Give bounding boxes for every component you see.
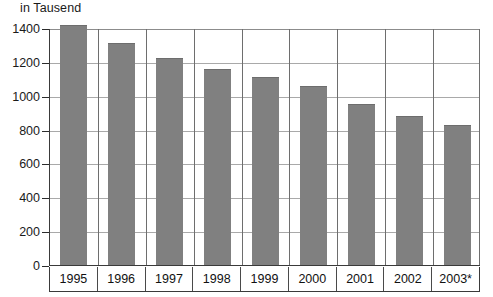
bar[interactable] xyxy=(252,77,279,265)
x-tick-label: 1999 xyxy=(241,267,289,291)
y-tick-mark xyxy=(42,232,49,233)
bar[interactable] xyxy=(444,125,471,265)
y-tick-label: 400 xyxy=(19,191,40,205)
bar[interactable] xyxy=(300,86,327,265)
bar-chart: in Tausend 0200400600800100012001400 199… xyxy=(0,0,493,297)
bar-slot xyxy=(194,29,242,265)
x-tick-label: 2003* xyxy=(432,267,479,291)
y-tick-mark xyxy=(42,198,49,199)
x-tick-label: 2001 xyxy=(337,267,385,291)
bar[interactable] xyxy=(348,104,375,265)
bar-slot xyxy=(289,29,337,265)
y-tick-label: 1400 xyxy=(12,22,40,36)
bar-slot xyxy=(98,29,146,265)
plot-area xyxy=(49,29,480,266)
bar-slot xyxy=(385,29,433,265)
bar[interactable] xyxy=(204,69,231,265)
x-tick-label: 1996 xyxy=(98,267,146,291)
y-tick-mark xyxy=(42,63,49,64)
bar[interactable] xyxy=(156,58,183,265)
chart-title: in Tausend xyxy=(20,1,81,15)
y-axis: 0200400600800100012001400 xyxy=(0,22,44,272)
y-tick-label: 0 xyxy=(33,259,40,273)
bar-slot xyxy=(433,29,481,265)
bar-slot xyxy=(50,29,98,265)
y-tick-mark xyxy=(42,131,49,132)
bars-container xyxy=(50,29,480,265)
y-tick-mark xyxy=(42,164,49,165)
y-tick-mark xyxy=(42,97,49,98)
y-tick-mark xyxy=(42,29,49,30)
x-tick-label: 2002 xyxy=(384,267,432,291)
y-tick-mark xyxy=(42,266,49,267)
bar-slot xyxy=(242,29,290,265)
y-tick-label: 600 xyxy=(19,157,40,171)
y-tick-label: 1200 xyxy=(12,56,40,70)
bar[interactable] xyxy=(108,43,135,265)
bar[interactable] xyxy=(60,25,87,265)
x-tick-label: 1997 xyxy=(146,267,194,291)
bar-slot xyxy=(337,29,385,265)
bar[interactable] xyxy=(396,116,423,265)
x-tick-label: 1998 xyxy=(193,267,241,291)
y-tick-label: 1000 xyxy=(12,90,40,104)
x-tick-label: 2000 xyxy=(289,267,337,291)
bar-slot xyxy=(146,29,194,265)
y-tick-label: 800 xyxy=(19,124,40,138)
x-tick-label: 1995 xyxy=(50,267,98,291)
x-axis: 199519961997199819992000200120022003* xyxy=(49,267,480,292)
y-tick-label: 200 xyxy=(19,225,40,239)
